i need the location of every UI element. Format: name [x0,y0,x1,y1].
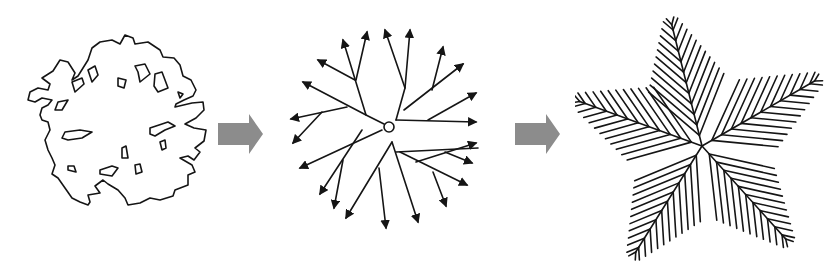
arrow-stage-1-to-2-icon [216,113,264,155]
stage-1-blob-shape [0,0,215,274]
stage-3-feathered-star [575,0,830,274]
center-node-icon [384,122,394,132]
stage-2-radial-skeleton [280,0,500,274]
arrow-stage-2-to-3-icon [513,113,561,155]
